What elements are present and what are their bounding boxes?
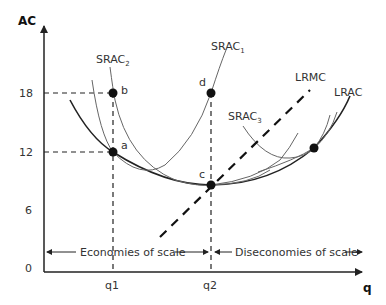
label-srac2: SRAC2: [96, 53, 130, 68]
label-c: c: [199, 168, 205, 181]
x-tick-q2: q2: [203, 279, 217, 292]
point-c: [207, 181, 216, 190]
label-b: b: [121, 84, 128, 97]
label-d: d: [199, 76, 206, 89]
point-b: [109, 89, 118, 98]
point-d: [207, 89, 216, 98]
label-a: a: [121, 139, 128, 152]
x-tick-q1: q1: [105, 279, 119, 292]
lrac-curve: [70, 96, 350, 185]
y-tick-0: 0: [25, 262, 32, 275]
srac-upper-curve: [258, 112, 337, 172]
label-lrmc: LRMC: [295, 71, 326, 84]
label-srac3: SRAC3: [228, 110, 262, 125]
economies-label: Economies of scale: [80, 246, 186, 259]
cost-curves-diagram: AC q 18 12 6 0 q1 q2 b a d c SRAC2 SRAC1…: [0, 0, 386, 305]
y-axis-label: AC: [18, 14, 36, 28]
point-a: [109, 148, 118, 157]
y-tick-12: 12: [19, 146, 33, 159]
diseconomies-label: Diseconomies of scale: [235, 246, 358, 259]
label-srac1: SRAC1: [211, 40, 245, 55]
y-tick-6: 6: [25, 204, 32, 217]
label-lrac: LRAC: [334, 86, 363, 99]
x-axis-label: q: [363, 281, 372, 295]
y-tick-18: 18: [19, 87, 33, 100]
point-tangent-srac3: [310, 144, 319, 153]
